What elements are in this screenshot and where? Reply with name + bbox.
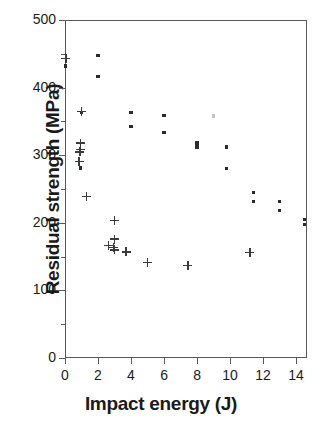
y-tick-label: 400 xyxy=(0,79,56,95)
y-tick-mark xyxy=(59,20,65,21)
y-minor-tick-mark xyxy=(61,121,65,122)
scatter-chart-figure: Residual strength (MPa) Impact energy (J… xyxy=(0,0,322,429)
y-tick-mark xyxy=(59,290,65,291)
x-tick-mark xyxy=(98,358,99,364)
y-minor-tick-mark xyxy=(61,189,65,190)
x-tick-mark xyxy=(164,358,165,364)
y-tick-mark xyxy=(59,155,65,156)
x-tick-mark xyxy=(230,358,231,364)
x-tick-mark xyxy=(197,358,198,364)
plot-right-spine xyxy=(306,20,307,358)
plot-top-spine xyxy=(65,20,307,21)
y-minor-tick-mark xyxy=(61,324,65,325)
y-tick-label: 200 xyxy=(0,214,56,230)
x-tick-mark xyxy=(263,358,264,364)
x-axis-label: Impact energy (J) xyxy=(0,393,322,415)
y-tick-mark xyxy=(59,223,65,224)
y-tick-label: 0 xyxy=(0,349,56,365)
y-minor-tick-mark xyxy=(61,54,65,55)
y-tick-label: 500 xyxy=(0,11,56,27)
x-tick-mark xyxy=(296,358,297,364)
y-tick-mark xyxy=(59,88,65,89)
plot-area xyxy=(65,20,307,358)
x-tick-label: 14 xyxy=(276,367,316,383)
x-tick-mark xyxy=(65,358,66,364)
y-tick-label: 100 xyxy=(0,281,56,297)
y-minor-tick-mark xyxy=(61,257,65,258)
y-tick-label: 300 xyxy=(0,146,56,162)
x-tick-mark xyxy=(131,358,132,364)
